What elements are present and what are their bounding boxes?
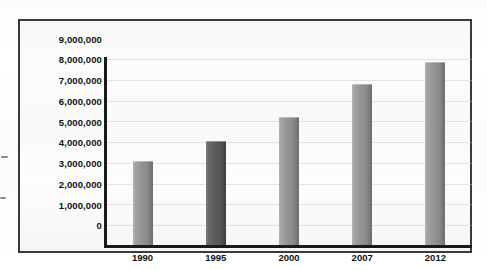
x-tick-label-2012: 2012	[405, 252, 465, 263]
bar-1990[interactable]	[133, 161, 153, 246]
x-tick-label-2007: 2007	[332, 252, 392, 263]
page-canvas: 9,000,000 8,000,000 7,000,000 6,000,000 …	[0, 0, 487, 270]
y-tick-label: 5,000,000	[26, 118, 102, 128]
bar-highlight-edge	[206, 141, 226, 142]
margin-artifact-mark	[0, 197, 6, 199]
x-tick-label-1995: 1995	[186, 252, 246, 263]
y-tick-label: 8,000,000	[26, 55, 102, 65]
gridline	[106, 59, 472, 60]
plot-area	[106, 59, 472, 246]
y-tick-label: 3,000,000	[26, 159, 102, 169]
y-tick-label: 7,000,000	[26, 76, 102, 86]
chart-figure-frame: 9,000,000 8,000,000 7,000,000 6,000,000 …	[18, 19, 472, 253]
x-tick-label-1990: 1990	[113, 252, 173, 263]
x-tick-label-2000: 2000	[259, 252, 319, 263]
margin-artifact-mark	[1, 156, 8, 158]
bar-highlight-edge	[133, 161, 153, 162]
bar-2000[interactable]	[279, 117, 299, 246]
y-tick-label: 4,000,000	[26, 138, 102, 148]
x-axis-line	[104, 245, 472, 248]
gridline	[106, 101, 472, 102]
bar-highlight-edge	[279, 117, 299, 118]
gridline	[106, 80, 472, 81]
y-tick-label: 6,000,000	[26, 97, 102, 107]
y-tick-label: 9,000,000	[26, 35, 102, 45]
bar-2012[interactable]	[425, 62, 445, 247]
x-axis-tick-labels: 1990 1995 2000 2007 2012	[106, 252, 472, 268]
bar-1995[interactable]	[206, 141, 226, 246]
bar-highlight-edge	[425, 62, 445, 63]
y-tick-label: 1,000,000	[26, 201, 102, 211]
y-tick-label: 0	[26, 221, 102, 231]
bar-highlight-edge	[352, 84, 372, 85]
bar-2007[interactable]	[352, 84, 372, 246]
y-axis-line	[104, 57, 107, 247]
y-axis-tick-labels: 9,000,000 8,000,000 7,000,000 6,000,000 …	[20, 21, 102, 255]
y-tick-label: 2,000,000	[26, 180, 102, 190]
